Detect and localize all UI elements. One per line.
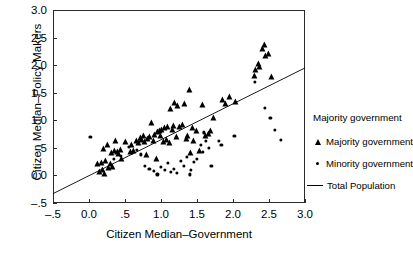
majority-government-point <box>257 64 263 70</box>
x-tick-label: –.5 <box>45 203 61 220</box>
majority-government-point <box>208 128 214 134</box>
plot-area: –.50.0.51.01.52.02.53.0 –.50.0.51.01.52.… <box>53 10 305 203</box>
majority-government-point <box>149 119 155 125</box>
y-tick-label: 0.0 <box>31 169 53 181</box>
majority-government-point <box>150 138 156 144</box>
majority-government-point <box>211 114 217 120</box>
majority-government-point <box>199 101 205 107</box>
legend-entries: Majority governmentMinority governmentTo… <box>313 136 413 191</box>
y-tick-label: 3.0 <box>31 4 53 16</box>
dot-marker-icon <box>313 162 322 165</box>
majority-government-point <box>153 155 159 161</box>
majority-government-point <box>173 133 179 139</box>
chart-legend: Majority government Majority governmentM… <box>313 112 413 202</box>
x-tick-label: 2.5 <box>261 203 277 220</box>
triangle-glyph <box>315 139 321 145</box>
y-tick-label: 1.0 <box>31 114 53 126</box>
x-tick-label: 1.5 <box>189 203 205 220</box>
x-tick-label: 2.0 <box>225 203 241 220</box>
majority-government-point <box>251 73 257 79</box>
majority-government-point <box>175 102 181 108</box>
line-glyph <box>307 185 323 186</box>
majority-government-point <box>101 171 107 177</box>
majority-government-point <box>113 138 119 144</box>
legend-item-label: Minority government <box>326 158 413 169</box>
majority-government-point <box>261 42 267 48</box>
majority-government-point <box>193 128 199 134</box>
x-tick-label: 3.0 <box>297 203 313 220</box>
majority-government-point <box>179 121 185 127</box>
majority-government-point <box>167 106 173 112</box>
majority-government-point <box>222 100 228 106</box>
majority-government-point <box>191 138 197 144</box>
majority-government-point <box>166 140 172 146</box>
majority-government-point <box>188 150 194 156</box>
y-tick-label: 2.5 <box>31 32 53 44</box>
x-tick-label: .5 <box>120 203 130 220</box>
majority-government-point <box>104 141 110 147</box>
y-tick-label: .5 <box>37 142 53 154</box>
x-axis-label: Citizen Median–Government <box>53 228 305 240</box>
majority-government-point <box>182 100 188 106</box>
triangle-marker-icon <box>313 139 322 145</box>
x-tick-label: 1.0 <box>153 203 169 220</box>
y-tick-label: 1.5 <box>31 87 53 99</box>
majority-government-point <box>268 74 274 80</box>
x-tick-label: 0.0 <box>81 203 97 220</box>
majority-government-point <box>186 86 192 92</box>
majority-government-point <box>143 151 149 157</box>
legend-item: Total Population <box>307 180 413 191</box>
legend-item: Majority government <box>313 136 413 147</box>
x-tick-mark <box>305 199 306 203</box>
legend-item: Minority government <box>313 158 413 169</box>
y-tick-label: 2.0 <box>31 59 53 71</box>
legend-title: Majority government <box>313 112 413 123</box>
majority-government-point <box>110 163 116 169</box>
majority-government-point <box>265 51 271 57</box>
majority-government-point <box>232 98 238 104</box>
legend-item-label: Total Population <box>327 180 395 191</box>
legend-item-label: Majority government <box>326 136 413 147</box>
dot-glyph <box>316 162 319 165</box>
scatter-chart: Citizen Median–Policy Makers –.50.0.51.0… <box>0 0 413 255</box>
majority-government-point <box>117 146 123 152</box>
line-marker-icon <box>307 185 323 186</box>
